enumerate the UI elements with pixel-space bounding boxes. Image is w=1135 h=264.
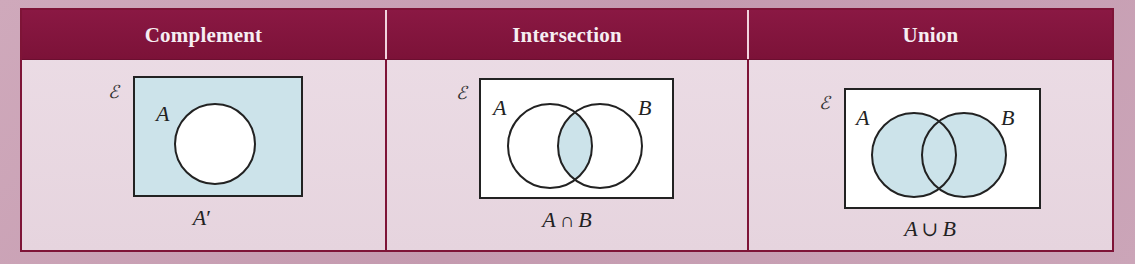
set-operations-table: Complement Intersection Union ℰ A A′ ℰ A… bbox=[20, 8, 1114, 252]
header-complement: Complement bbox=[22, 10, 385, 59]
universal-set-symbol: ℰ bbox=[456, 82, 469, 103]
intersection-caption: A∩B bbox=[517, 207, 617, 233]
union-caption: A∪B bbox=[880, 216, 980, 242]
caption-set-b: B bbox=[578, 207, 591, 232]
complement-venn-diagram: ℰ A bbox=[102, 70, 312, 200]
set-b-label: B bbox=[638, 95, 651, 120]
intersection-venn-diagram: ℰ A B bbox=[452, 72, 682, 202]
set-a-circle bbox=[175, 104, 255, 184]
intersection-symbol: ∩ bbox=[560, 209, 574, 231]
caption-prime: ′ bbox=[206, 205, 211, 230]
header-intersection: Intersection bbox=[387, 10, 747, 59]
union-symbol: ∪ bbox=[922, 218, 939, 240]
set-b-label: B bbox=[1001, 105, 1014, 130]
caption-set-b: B bbox=[942, 216, 955, 241]
caption-set-a: A bbox=[542, 207, 555, 232]
caption-set-a: A bbox=[904, 216, 917, 241]
table-header-row: Complement Intersection Union bbox=[22, 10, 1112, 60]
universal-set-symbol: ℰ bbox=[108, 81, 121, 102]
column-divider bbox=[747, 60, 749, 250]
column-divider bbox=[385, 60, 387, 250]
complement-caption: A′ bbox=[177, 205, 227, 231]
universal-set-symbol: ℰ bbox=[819, 92, 832, 113]
set-a-label: A bbox=[854, 105, 870, 130]
set-a-label: A bbox=[154, 101, 170, 126]
caption-set-a: A bbox=[193, 205, 206, 230]
header-union: Union bbox=[749, 10, 1112, 59]
union-venn-diagram: ℰ A B bbox=[815, 82, 1045, 212]
set-a-label: A bbox=[491, 95, 507, 120]
